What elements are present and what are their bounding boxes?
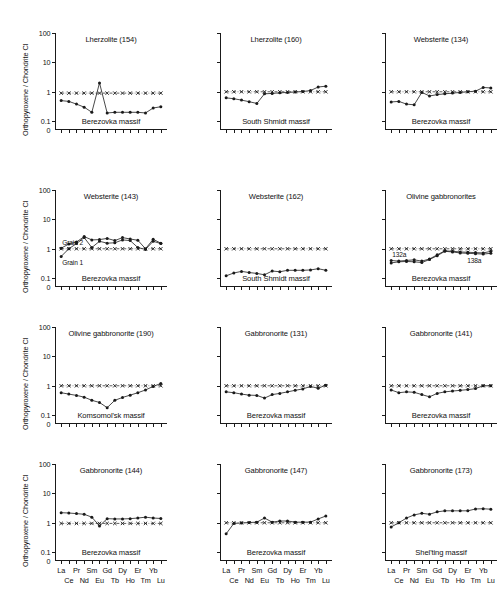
x-tick bbox=[468, 561, 469, 564]
x-tick bbox=[272, 424, 273, 427]
data-point bbox=[248, 100, 251, 103]
data-point bbox=[75, 512, 78, 515]
y-tick-label: 0 bbox=[47, 420, 51, 429]
chart-panel: Gabbronorite (147)Berezovka massif bbox=[220, 464, 332, 561]
data-point bbox=[428, 395, 431, 398]
x-tick bbox=[491, 287, 492, 290]
x-tick bbox=[437, 561, 438, 564]
chart-panel: 1001010.10Lherzolite (154)Berezovka mass… bbox=[55, 33, 167, 130]
x-tick bbox=[437, 287, 438, 290]
x-tick bbox=[483, 424, 484, 427]
x-tick bbox=[422, 561, 423, 564]
data-point bbox=[75, 103, 78, 106]
cross-marker bbox=[270, 247, 273, 250]
x-tick bbox=[61, 561, 62, 564]
x-tick bbox=[234, 287, 235, 290]
data-point bbox=[413, 103, 416, 106]
x-axis-label: Lu bbox=[157, 576, 165, 585]
x-tick bbox=[303, 287, 304, 290]
x-axis-label: Eu bbox=[425, 576, 434, 585]
data-point bbox=[466, 509, 469, 512]
x-tick bbox=[483, 287, 484, 290]
x-tick bbox=[437, 424, 438, 427]
x-tick bbox=[295, 424, 296, 427]
y-tick-label: 0.1 bbox=[41, 117, 51, 126]
y-tick-label: 100 bbox=[39, 29, 51, 38]
x-tick bbox=[76, 130, 77, 133]
x-tick bbox=[241, 424, 242, 427]
x-tick bbox=[399, 424, 400, 427]
data-point bbox=[255, 272, 258, 275]
x-tick bbox=[399, 561, 400, 564]
x-tick bbox=[115, 287, 116, 290]
data-point bbox=[60, 99, 63, 102]
x-tick bbox=[326, 130, 327, 133]
data-point bbox=[317, 86, 320, 89]
series-layer bbox=[220, 464, 332, 561]
y-tick-label: 0.1 bbox=[41, 274, 51, 283]
data-point bbox=[113, 517, 116, 520]
cross-marker bbox=[443, 384, 446, 387]
data-point bbox=[286, 269, 289, 272]
x-axis-label: La bbox=[387, 566, 395, 575]
x-tick bbox=[272, 130, 273, 133]
x-axis-label: Pr bbox=[403, 566, 410, 575]
data-point bbox=[106, 237, 109, 240]
x-tick bbox=[460, 561, 461, 564]
x-tick bbox=[107, 287, 108, 290]
data-point bbox=[436, 392, 439, 395]
data-point bbox=[144, 111, 147, 114]
x-tick bbox=[161, 130, 162, 133]
x-tick bbox=[138, 424, 139, 427]
x-tick bbox=[249, 287, 250, 290]
y-tick-label: 100 bbox=[39, 186, 51, 195]
series-layer bbox=[220, 190, 332, 287]
x-axis-label: Nd bbox=[80, 576, 89, 585]
data-point bbox=[60, 255, 63, 258]
x-axis-label: Ho bbox=[291, 576, 300, 585]
x-tick bbox=[226, 287, 227, 290]
x-axis-label: Lu bbox=[322, 576, 330, 585]
data-point bbox=[294, 389, 297, 392]
x-axis-label: Tm bbox=[470, 576, 480, 585]
x-axis-label: Tb bbox=[111, 576, 119, 585]
x-axis-label: Eu bbox=[260, 576, 269, 585]
cross-marker bbox=[113, 384, 116, 387]
x-axis-labels: LaCePrNdSmEuGdTbDyHoErTmYbLu bbox=[220, 566, 332, 588]
x-tick bbox=[422, 287, 423, 290]
chart-panel: 1001010.10Olivine gabbronorite (190)Koms… bbox=[55, 327, 167, 424]
data-point bbox=[263, 397, 266, 400]
x-tick bbox=[84, 424, 85, 427]
data-point bbox=[121, 111, 124, 114]
chart-panel: Lherzolite (160)South Shmidt massif bbox=[220, 33, 332, 130]
chart-panel: Gabbronorite (141)Berezovka massif bbox=[385, 327, 497, 424]
x-tick bbox=[99, 561, 100, 564]
x-tick bbox=[138, 130, 139, 133]
y-tick-label: 1 bbox=[47, 87, 51, 96]
x-axis-labels: LaCePrNdSmEuGdTbDyHoErTmYbLu bbox=[385, 566, 497, 588]
x-axis-label: Pr bbox=[238, 566, 245, 575]
x-tick bbox=[69, 561, 70, 564]
y-tick-label: 10 bbox=[43, 58, 51, 67]
data-point bbox=[413, 391, 416, 394]
data-point bbox=[466, 252, 469, 255]
x-tick bbox=[288, 287, 289, 290]
data-point bbox=[152, 240, 155, 243]
data-point bbox=[278, 270, 281, 273]
data-point bbox=[324, 269, 327, 272]
x-tick bbox=[84, 130, 85, 133]
data-point bbox=[459, 251, 462, 254]
x-tick bbox=[280, 287, 281, 290]
x-tick bbox=[123, 424, 124, 427]
series-layer bbox=[220, 33, 332, 130]
cross-marker bbox=[105, 247, 108, 250]
x-tick bbox=[234, 130, 235, 133]
x-tick bbox=[280, 561, 281, 564]
data-point bbox=[428, 513, 431, 516]
data-point bbox=[248, 271, 251, 274]
x-tick bbox=[61, 287, 62, 290]
x-tick bbox=[138, 287, 139, 290]
x-tick bbox=[406, 424, 407, 427]
x-axis-label: Sm bbox=[87, 566, 98, 575]
x-tick bbox=[92, 561, 93, 564]
